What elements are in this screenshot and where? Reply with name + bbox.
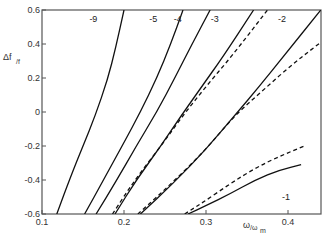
solid-curve xyxy=(115,10,254,214)
plot-curves xyxy=(57,10,321,214)
curve-label: -9 xyxy=(89,14,97,24)
svg-text:/ω: /ω xyxy=(250,224,258,231)
x-tick-label: 0.1 xyxy=(36,217,49,227)
y-tick-label: -0.2 xyxy=(24,141,40,151)
y-tick-label: 0.2 xyxy=(27,73,40,83)
svg-text:ω: ω xyxy=(243,220,250,230)
solid-curve xyxy=(188,165,301,214)
x-tick-label: 0.2 xyxy=(118,217,131,227)
y-axis: 0.60.40.20-0.2-0.4-0.6 xyxy=(24,5,46,219)
svg-text:Δf: Δf xyxy=(3,52,12,62)
curve-labels: -9-5-4-3-2-1 xyxy=(89,14,290,203)
y-tick-label: 0.4 xyxy=(27,39,40,49)
y-tick-label: 0 xyxy=(35,107,40,117)
curve-label: -1 xyxy=(282,192,290,202)
dashed-curve xyxy=(138,42,321,214)
curve-label: -3 xyxy=(211,14,219,24)
x-tick-label: 0.3 xyxy=(200,217,213,227)
x-tick-label: 0.4 xyxy=(282,217,295,227)
y-axis-label: Δf /f xyxy=(3,52,20,65)
svg-text:m: m xyxy=(260,227,266,234)
curve-label: -4 xyxy=(174,14,182,24)
dashed-curve xyxy=(113,10,268,214)
y-tick-label: 0.6 xyxy=(27,5,40,15)
solid-curve xyxy=(96,10,210,214)
dashed-curve xyxy=(185,146,305,214)
plot-frame xyxy=(42,10,321,214)
y-tick-label: -0.4 xyxy=(24,175,40,185)
curve-label: -2 xyxy=(278,14,286,24)
solid-curve xyxy=(140,10,320,214)
x-axis-label: ω /ω m xyxy=(243,220,266,234)
curve-label: -5 xyxy=(149,14,157,24)
svg-text:/f: /f xyxy=(16,58,20,65)
line-chart: 0.60.40.20-0.2-0.4-0.6 0.10.20.30.4 -9-5… xyxy=(0,0,330,247)
